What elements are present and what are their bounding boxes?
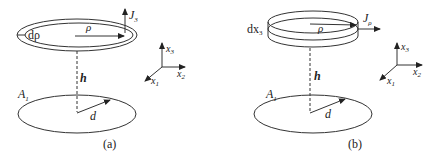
flux-label: J3 [129, 8, 138, 24]
panel-a: dρ ρ J3 h A1 d x3 x2 x1 (a) [17, 8, 185, 151]
area-label-b: A1 [265, 87, 277, 103]
axis-x3-label-b: x3 [400, 41, 409, 54]
ring-width-label: dρ [28, 28, 40, 42]
axis-x2-label: x2 [176, 68, 185, 81]
height-label-b: h [314, 69, 321, 83]
axes-b: x3 x2 x1 [380, 41, 422, 88]
radius-label-b: ρ [317, 22, 323, 34]
ring-inner [25, 23, 133, 47]
disk-radius-label: d [90, 109, 97, 123]
diagram-canvas: dρ ρ J3 h A1 d x3 x2 x1 (a) dx3 [0, 0, 438, 158]
axis-x2-label-b: x2 [412, 66, 421, 79]
axis-x1-label-b: x1 [386, 75, 395, 88]
shell-bottom [268, 36, 358, 47]
disk-radius-label-b: d [325, 107, 332, 121]
area-label: A1 [17, 87, 29, 103]
axis-x1-label: x1 [150, 75, 159, 88]
caption-a: (a) [103, 137, 116, 151]
shell-mid [268, 18, 358, 40]
shell-width-label: dx3 [247, 22, 263, 37]
area-disk [18, 95, 136, 133]
panel-b: dx3 ρ Jρ h A1 d x3 x2 x1 (b) [247, 11, 422, 151]
height-label: h [80, 71, 87, 85]
flux-label-b: Jρ [363, 11, 372, 27]
radius-label: ρ [85, 21, 91, 33]
axes-a: x3 x2 x1 [145, 43, 185, 88]
caption-b: (b) [348, 137, 362, 151]
shell-top [268, 11, 358, 33]
radius-arrow-b [310, 24, 356, 25]
axis-x3-label: x3 [165, 43, 174, 56]
